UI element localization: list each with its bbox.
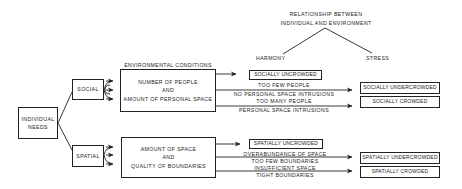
social-over-line1: TOO MANY PEOPLE [256,98,312,104]
environmental-conditions-label: ENVIRONMENTAL CONDITIONS [124,62,212,68]
socially-undercrowded-box: SOCIALLY UNDERCROWDED [360,82,440,94]
spatial-under-line1: OVERABUNDANCE OF SPACE [243,151,326,157]
spatially-uncrowded-box: SPATIALLY UNCROWDED [249,139,323,149]
root-to-spatial-line [58,123,72,150]
socially-undercrowded-label: SOCIALLY UNDERCROWDED [363,84,437,92]
spatially-crowded-box: SPATIALLY CROWDED [360,166,440,178]
individual-needs-line2: NEEDS [28,123,48,131]
social-conditions-box: NUMBER OF PEOPLE AND AMOUNT OF PERSONAL … [120,69,216,112]
spatial-conditions-line2: AND [162,153,174,161]
harmony-label: HARMONY [256,55,285,61]
social-under-line1: TOO FEW PEOPLE [258,82,310,88]
spatially-crowded-label: SPATIALLY CROWDED [372,168,429,176]
individual-needs-line1: INDIVIDUAL [21,115,54,123]
spatial-conditions-line1: AMOUNT OF SPACE [141,145,197,153]
socially-crowded-box: SOCIALLY CROWDED [360,96,440,108]
spatial-box: SPATIAL [72,145,104,167]
individual-needs-box: INDIVIDUAL NEEDS [18,107,58,139]
socially-uncrowded-label: SOCIALLY UNCROWDED [254,71,317,79]
spatial-over-line1: INSUFFICIENT SPACE [254,165,315,171]
spatial-under-line2: TOO FEW BOUNDARIES [251,158,318,164]
spatial-over-line2: TIGHT BOUNDARIES [256,172,314,178]
spatial-label: SPATIAL [76,152,99,160]
stress-label: STRESS [366,55,389,61]
spatial-conditions-box: AMOUNT OF SPACE AND QUALITY OF BOUNDARIE… [121,137,216,178]
social-conditions-line3: AMOUNT OF PERSONAL SPACE [124,95,213,103]
spatially-undercrowded-box: SPATIALLY UNDERCROWDED [360,152,440,164]
relationship-branch-lines [283,28,372,54]
social-under-line2: NO PERSONAL SPACE INTRUSIONS [234,91,335,97]
spatially-uncrowded-label: SPATIALLY UNCROWDED [254,140,318,148]
relationship-title-line1: RELATIONSHIP BETWEEN [290,11,363,17]
social-conditions-line1: NUMBER OF PEOPLE [138,78,198,86]
social-label: SOCIAL [77,85,98,93]
social-over-line2: PERSONAL SPACE INTRUSIONS [239,107,329,113]
root-to-social-line [58,92,72,123]
socially-uncrowded-box: SOCIALLY UNCROWDED [249,70,322,80]
social-conditions-line2: AND [162,86,174,94]
socially-crowded-label: SOCIALLY CROWDED [373,98,428,106]
spatial-conditions-line3: QUALITY OF BOUNDARIES [131,162,206,170]
spatially-undercrowded-label: SPATIALLY UNDERCROWDED [362,154,437,162]
social-box: SOCIAL [72,79,104,100]
relationship-title-line2: INDIVIDUAL AND ENVIRONMENT [280,20,371,26]
